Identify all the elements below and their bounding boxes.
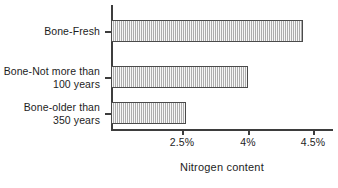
y-tick-0	[105, 31, 111, 33]
bar-bone-older-than-350-years	[111, 102, 186, 124]
y-tick-1	[105, 77, 111, 79]
bar-bone-fresh	[111, 20, 303, 42]
x-tick-label-1: 4%	[240, 136, 256, 148]
x-tick-2	[313, 130, 315, 135]
y-tick-2	[105, 113, 111, 115]
x-axis-title: Nitrogen content	[111, 161, 333, 173]
x-tick-0	[182, 130, 184, 135]
y-axis-label-bone-fresh: Bone-Fresh	[44, 25, 100, 38]
x-tick-label-2: 4.5%	[301, 136, 326, 148]
y-axis-label-bone-not-more-than-100-years: Bone-Not more than 100 years	[4, 65, 100, 90]
x-tick-label-0: 2.5%	[170, 136, 195, 148]
x-axis-line	[111, 129, 333, 131]
nitrogen-content-bar-chart: Bone-Fresh Bone-Not more than 100 years …	[0, 0, 338, 188]
x-tick-1	[248, 130, 250, 135]
bar-bone-not-more-than-100-years	[111, 66, 248, 88]
y-axis-label-bone-older-than-350-years: Bone-older than 350 years	[24, 101, 100, 126]
